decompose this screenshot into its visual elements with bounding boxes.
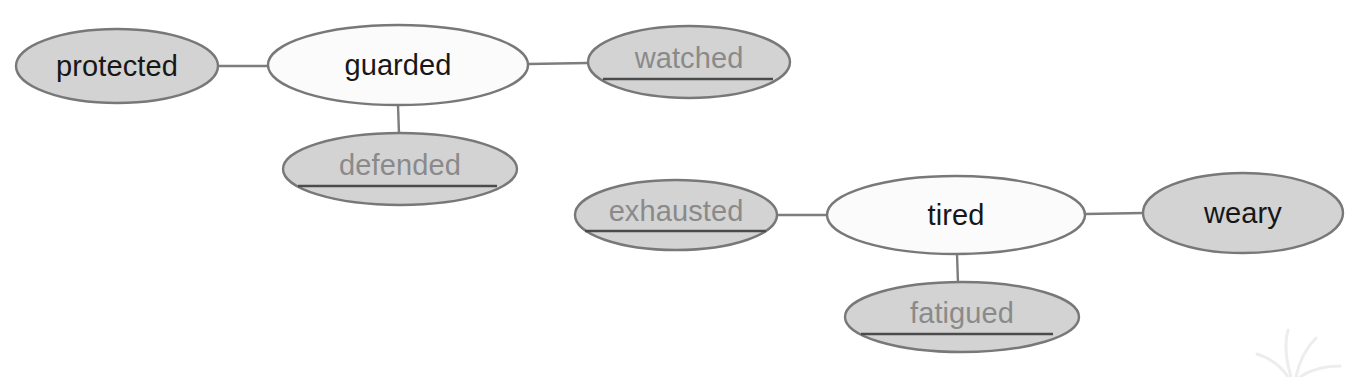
diagram-canvas: [0, 0, 1358, 377]
connector-line: [957, 254, 958, 283]
node-protected[interactable]: [16, 29, 218, 103]
node-ellipse: [827, 176, 1085, 254]
node-fatigued[interactable]: [845, 282, 1079, 352]
node-ellipse: [16, 29, 218, 103]
node-defended[interactable]: [283, 133, 517, 205]
node-ellipse: [575, 180, 777, 250]
node-weary[interactable]: [1143, 173, 1343, 253]
node-guarded[interactable]: [268, 25, 528, 105]
node-ellipse: [268, 25, 528, 105]
node-tired[interactable]: [827, 176, 1085, 254]
node-ellipse: [283, 133, 517, 205]
connector-line: [528, 63, 588, 64]
node-watched[interactable]: [588, 26, 790, 98]
connector-line: [398, 105, 399, 134]
node-exhausted[interactable]: [575, 180, 777, 250]
connector-line: [1085, 213, 1143, 214]
node-ellipse: [1143, 173, 1343, 253]
word-web-diagram: protectedguardedwatcheddefendedexhausted…: [0, 0, 1358, 377]
node-ellipse: [845, 282, 1079, 352]
node-ellipse: [588, 26, 790, 98]
